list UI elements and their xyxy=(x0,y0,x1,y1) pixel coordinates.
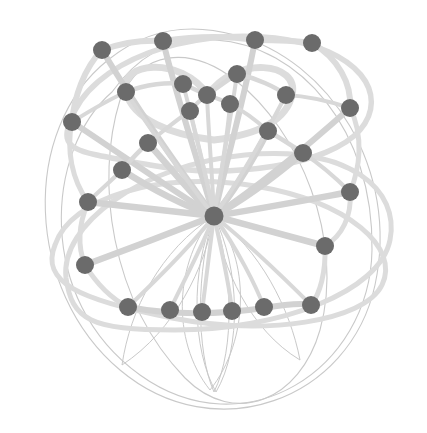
graph-figure xyxy=(0,0,427,433)
graph-node-n26[interactable] xyxy=(255,298,273,316)
graph-node-n22[interactable] xyxy=(119,298,137,316)
graph-node-n17[interactable] xyxy=(294,144,312,162)
graph-node-n19[interactable] xyxy=(341,183,359,201)
graph-node-n06[interactable] xyxy=(341,99,359,117)
graph-diagram-canvas xyxy=(0,0,427,433)
graph-node-n16[interactable] xyxy=(113,161,131,179)
graph-node-hub[interactable] xyxy=(205,207,224,226)
graph-node-n04[interactable] xyxy=(303,34,321,52)
graph-node-n02[interactable] xyxy=(154,32,172,50)
graph-node-n11[interactable] xyxy=(181,102,199,120)
graph-node-n12[interactable] xyxy=(221,95,239,113)
graph-node-n09[interactable] xyxy=(198,86,216,104)
graph-node-n10[interactable] xyxy=(228,65,246,83)
graph-node-n13[interactable] xyxy=(277,86,295,104)
graph-node-n23[interactable] xyxy=(161,301,179,319)
graph-node-n03[interactable] xyxy=(246,31,264,49)
graph-node-n27[interactable] xyxy=(302,296,320,314)
chain-bottom-row xyxy=(128,304,311,313)
graph-node-n20[interactable] xyxy=(316,237,334,255)
graph-node-n08[interactable] xyxy=(174,75,192,93)
chain-n20-n27 xyxy=(311,246,325,305)
edge-group-ring-chains xyxy=(70,37,359,313)
graph-node-n01[interactable] xyxy=(93,41,111,59)
graph-node-n24[interactable] xyxy=(193,303,211,321)
graph-node-n25[interactable] xyxy=(223,302,241,320)
graph-node-n18[interactable] xyxy=(79,193,97,211)
graph-node-n05[interactable] xyxy=(63,113,81,131)
chain-n13-n06 xyxy=(286,95,350,108)
graph-node-n15[interactable] xyxy=(259,122,277,140)
graph-node-n07[interactable] xyxy=(117,83,135,101)
graph-node-n14[interactable] xyxy=(139,134,157,152)
graph-node-n21[interactable] xyxy=(76,256,94,274)
